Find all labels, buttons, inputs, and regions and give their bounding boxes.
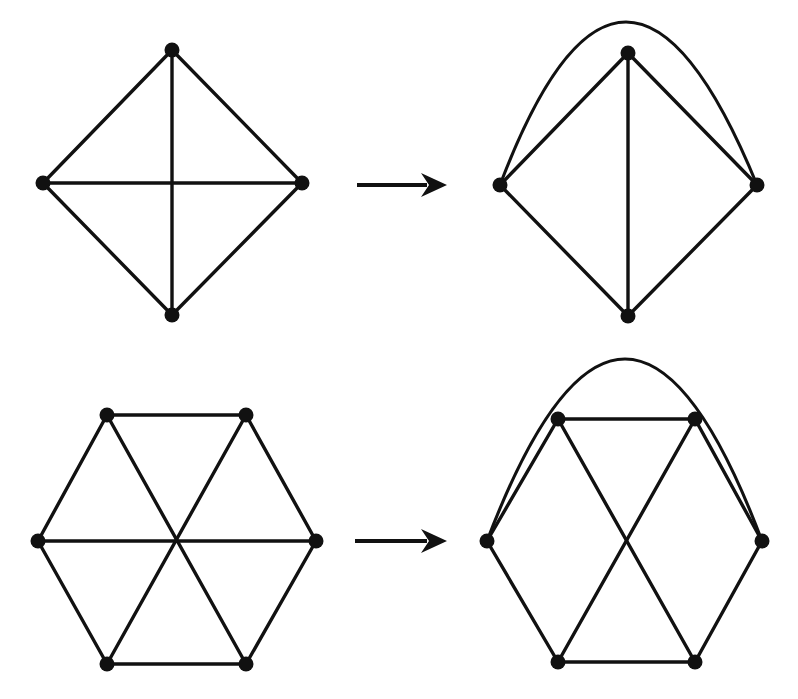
graph-vertex-br bbox=[688, 655, 703, 670]
graph-edge-t-r bbox=[172, 50, 302, 183]
row-top-group bbox=[36, 22, 765, 324]
graph-edge-t-r bbox=[628, 53, 757, 185]
graph-vertex-tl bbox=[100, 408, 115, 423]
graph-edge-r-b bbox=[628, 185, 757, 316]
graph-vertex-r bbox=[750, 178, 765, 193]
graph-vertex-l bbox=[493, 178, 508, 193]
transform-arrow-bottom bbox=[355, 529, 447, 553]
graph-edge-l-tl bbox=[38, 415, 107, 541]
graph-edge-r-b bbox=[172, 183, 302, 315]
row-bottom-group bbox=[31, 359, 770, 672]
graph-vertex-r bbox=[309, 534, 324, 549]
graph-edge-r-br bbox=[246, 541, 316, 664]
graph-vertex-r bbox=[295, 176, 310, 191]
graph-vertex-bl bbox=[100, 657, 115, 672]
graph-vertex-l bbox=[480, 534, 495, 549]
graph-edge-r-br bbox=[695, 541, 762, 662]
graph-vertex-tr bbox=[239, 408, 254, 423]
graph-vertex-l bbox=[36, 176, 51, 191]
graph-vertex-tl bbox=[551, 412, 566, 427]
graph-edge-tr-r bbox=[246, 415, 316, 541]
graph-vertex-b bbox=[165, 308, 180, 323]
transform-arrow-top bbox=[357, 173, 447, 197]
hexagon-graph-after bbox=[480, 359, 770, 670]
graph-transformation-diagram bbox=[0, 0, 798, 699]
diamond-graph-after bbox=[493, 22, 765, 324]
diamond-graph-before bbox=[36, 43, 310, 323]
graph-vertex-tr bbox=[688, 412, 703, 427]
graph-vertex-bl bbox=[551, 655, 566, 670]
graph-vertex-br bbox=[239, 657, 254, 672]
graph-vertex-t bbox=[621, 46, 636, 61]
graph-edge-l-b bbox=[43, 183, 172, 315]
graph-edge-t-l bbox=[43, 50, 172, 183]
graph-vertex-l bbox=[31, 534, 46, 549]
graph-vertex-t bbox=[165, 43, 180, 58]
figure-root bbox=[0, 0, 798, 699]
graph-edge-bl-l bbox=[487, 541, 558, 662]
graph-edge-t-l bbox=[500, 53, 628, 185]
graph-edge-arc-l-r bbox=[487, 359, 762, 541]
graph-vertex-r bbox=[755, 534, 770, 549]
hexagon-graph-before bbox=[31, 408, 324, 672]
graph-vertex-b bbox=[621, 309, 636, 324]
graph-edge-l-b bbox=[500, 185, 628, 316]
graph-edge-tr-r bbox=[695, 419, 762, 541]
graph-edge-l-tl bbox=[487, 419, 558, 541]
graph-edge-bl-l bbox=[38, 541, 107, 664]
